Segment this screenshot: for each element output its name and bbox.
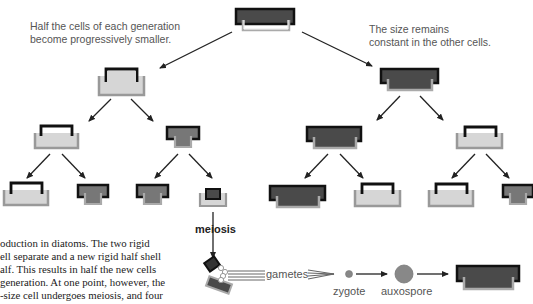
arrow (302, 32, 372, 66)
caption-line-1: oduction in diatoms. The two rigid (0, 237, 150, 250)
cell-gen2-2 (167, 127, 199, 147)
cell-gen1-dark (381, 69, 438, 90)
cell-gen3-2 (78, 185, 108, 204)
zygote (346, 271, 353, 278)
cell-gen3-8 (503, 185, 533, 204)
right-note-line2: constant in the other cells. (369, 36, 491, 49)
left-note-line1: Half the cells of each generation (30, 20, 180, 33)
cell-gen3-6 (355, 184, 400, 206)
caption-line-4: generation. At one point, however, the (0, 276, 165, 289)
cell-gen3-7 (429, 184, 473, 206)
cell-gen2-4 (457, 127, 502, 148)
left-note-line2: become progressively smaller. (30, 33, 171, 46)
caption-line-5: -size cell undergoes meiosis, and four (0, 289, 163, 302)
diatom-reproduction-diagram: Half the cells of each generation become… (0, 0, 533, 304)
auxospore (395, 265, 413, 283)
restored-cell (457, 266, 519, 289)
root-cell (236, 9, 294, 30)
right-note-line1: The size remains (369, 23, 449, 36)
caption-line-2: ell separate and a new rigid half shell (0, 250, 161, 263)
meiosis-cells (204, 256, 232, 293)
caption-line-3: alf. This results in half the new cells (0, 263, 156, 276)
cell-gen3-3 (137, 185, 168, 204)
gametes-label: gametes (266, 268, 308, 281)
cell-gen3-5 (270, 186, 325, 207)
cell-gen2-1 (35, 126, 78, 148)
cell-gen1-light (99, 69, 144, 95)
auxospore-label: auxospore (381, 285, 432, 298)
meiosis-label: meiosis (195, 223, 236, 236)
cell-gen3-1 (4, 183, 48, 205)
zygote-label: zygote (333, 285, 365, 298)
cell-gen2-3 (307, 127, 361, 148)
cell-gen3-tiny (200, 189, 226, 206)
